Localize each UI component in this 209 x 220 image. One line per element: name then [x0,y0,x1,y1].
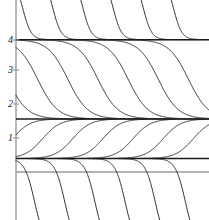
solution-curves-between-2-and-4 [16,40,209,119]
curve-below-1-3 [88,159,193,220]
curve-1to2-3 [34,119,173,159]
curve-1to2-4 [64,119,203,159]
y-tick-label-1: 1 [1,133,13,143]
y-tick-label-3: 3 [1,65,13,75]
curve-below-1-1 [28,159,133,220]
y-tick-label-4: 4 [1,35,13,45]
phase-portrait-figure: 4 3 2 1 [0,0,209,220]
curve-1to2-1 [16,119,112,157]
plot-canvas [0,0,209,220]
equilibrium-lines [16,40,209,159]
curve-2to4-6 [119,40,209,110]
curve-below-1-0 [16,161,103,220]
curve-2to4-5 [88,40,209,119]
curve-above-4-0 [16,0,79,40]
curve-below-1-4 [119,159,209,220]
curve-1to2-2 [16,119,143,159]
curve-1to2-5 [94,119,208,158]
curve-1to2-6 [125,125,209,159]
solution-curves-below-1 [16,159,209,220]
solution-curves-between-1-and-2 [16,119,209,159]
curve-2to4-1 [16,48,116,119]
curve-above-4-5 [140,0,209,40]
y-tick-label-2: 2 [1,99,13,109]
axis-lines [16,0,209,220]
curve-below-1-2 [58,159,163,220]
solution-curves-above-4 [16,0,209,40]
curve-2to4-0 [16,95,85,119]
